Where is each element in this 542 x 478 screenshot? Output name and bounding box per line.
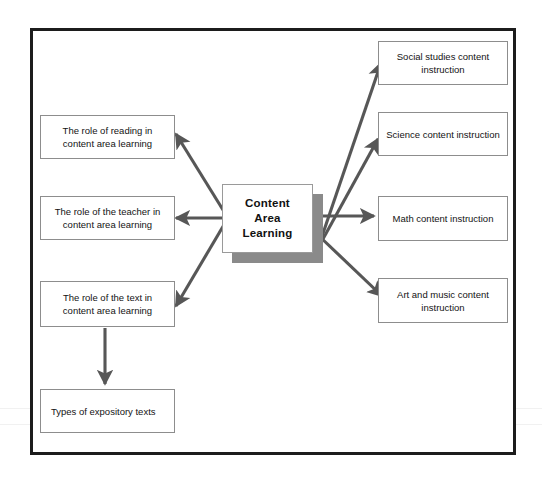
node-role-of-teacher[interactable]: The role of the teacher in content area … (40, 196, 175, 240)
node-label: The role of the teacher in content area … (47, 205, 168, 231)
node-science-instruction[interactable]: Science content instruction (378, 112, 508, 156)
node-label: Types of expository texts (51, 405, 156, 418)
node-content-area-learning[interactable]: Content Area Learning (222, 184, 313, 253)
node-role-of-reading[interactable]: The role of reading in content area lear… (40, 115, 175, 159)
node-art-music-instruction[interactable]: Art and music content instruction (378, 278, 508, 323)
node-label: Math content instruction (393, 212, 494, 225)
node-role-of-text[interactable]: The role of the text in content area lea… (40, 281, 175, 327)
node-label: The role of reading in content area lear… (47, 124, 168, 150)
center-node-label: Content Area Learning (242, 196, 292, 241)
node-math-instruction[interactable]: Math content instruction (378, 196, 508, 241)
node-label: Science content instruction (386, 128, 500, 141)
node-expository-texts[interactable]: Types of expository texts (40, 389, 175, 433)
node-label: The role of the text in content area lea… (47, 291, 168, 317)
diagram-canvas: The role of reading in content area lear… (0, 0, 542, 478)
node-social-studies-instruction[interactable]: Social studies content instruction (378, 41, 508, 85)
node-label: Art and music content instruction (385, 288, 501, 314)
node-label: Social studies content instruction (385, 50, 501, 76)
